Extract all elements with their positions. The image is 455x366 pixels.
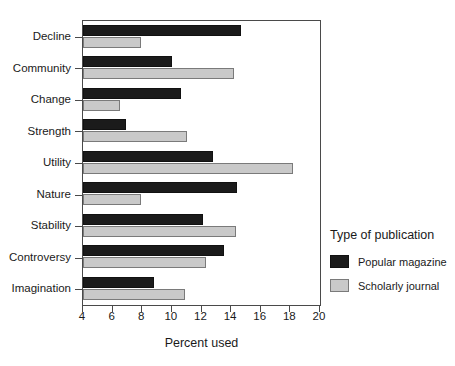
legend-item-popular-magazine: Popular magazine <box>330 255 455 268</box>
y-axis-label-utility: Utility <box>43 147 71 179</box>
bar-scholarly-journal <box>83 257 206 268</box>
x-axis-title: Percent used <box>82 336 321 350</box>
legend: Type of publication Popular magazine Sch… <box>330 228 455 303</box>
x-axis-tick-label-6: 6 <box>97 310 127 322</box>
y-axis-tick <box>75 100 82 101</box>
bar-scholarly-journal <box>83 68 234 79</box>
bar-rows-container <box>83 21 320 305</box>
bar-popular-magazine <box>83 277 154 288</box>
bar-row <box>83 84 320 116</box>
legend-label-popular-magazine: Popular magazine <box>358 256 447 268</box>
y-axis-tick <box>75 226 82 227</box>
legend-label-scholarly-journal: Scholarly journal <box>358 280 439 292</box>
x-axis-tick-label-4: 4 <box>67 310 97 322</box>
bar-scholarly-journal <box>83 37 141 48</box>
bar-popular-magazine <box>83 214 203 225</box>
bar-popular-magazine <box>83 245 224 256</box>
y-axis-tick <box>75 195 82 196</box>
bar-popular-magazine <box>83 119 126 130</box>
bar-row <box>83 242 320 274</box>
bar-row <box>83 147 320 179</box>
y-axis-label-decline: Decline <box>33 21 71 53</box>
bar-scholarly-journal <box>83 131 187 142</box>
bar-row <box>83 53 320 85</box>
y-axis-tick <box>75 131 82 132</box>
y-axis-tick <box>75 289 82 290</box>
x-axis-tick-label-10: 10 <box>156 310 186 322</box>
legend-swatch-icon-scholarly-journal <box>330 279 349 292</box>
bar-row <box>83 273 320 305</box>
legend-swatch-icon-popular-magazine <box>330 255 349 268</box>
y-axis-label-controversy: Controversy <box>9 242 71 274</box>
bar-scholarly-journal <box>83 226 236 237</box>
y-axis-category-labels: DeclineCommunityChangeStrengthUtilityNat… <box>0 21 82 305</box>
bar-popular-magazine <box>83 88 181 99</box>
x-axis-tick-label-20: 20 <box>304 310 334 322</box>
x-axis-tick-label-8: 8 <box>126 310 156 322</box>
y-axis-tick <box>75 163 82 164</box>
x-axis-tick-label-18: 18 <box>274 310 304 322</box>
legend-item-scholarly-journal: Scholarly journal <box>330 279 455 292</box>
horizontal-bar-chart: DeclineCommunityChangeStrengthUtilityNat… <box>0 0 455 366</box>
x-axis-tick-label-12: 12 <box>186 310 216 322</box>
y-axis-label-change: Change <box>31 84 71 116</box>
y-axis-label-strength: Strength <box>28 116 71 148</box>
y-axis-tick <box>75 37 82 38</box>
bar-scholarly-journal <box>83 163 293 174</box>
y-axis-label-imagination: Imagination <box>12 273 71 305</box>
y-axis-label-community: Community <box>13 53 71 85</box>
bar-row <box>83 116 320 148</box>
bar-popular-magazine <box>83 182 237 193</box>
bar-scholarly-journal <box>83 194 141 205</box>
bar-scholarly-journal <box>83 100 120 111</box>
y-axis-label-stability: Stability <box>31 210 71 242</box>
x-axis-tick-labels: 468101214161820 <box>0 310 455 326</box>
x-axis-tick-label-16: 16 <box>245 310 275 322</box>
y-axis-tick <box>75 68 82 69</box>
bar-row <box>83 21 320 53</box>
bar-scholarly-journal <box>83 289 185 300</box>
y-axis-label-nature: Nature <box>36 179 71 211</box>
bar-popular-magazine <box>83 25 241 36</box>
bar-popular-magazine <box>83 151 213 162</box>
y-axis-tick <box>75 258 82 259</box>
x-axis-tick-label-14: 14 <box>215 310 245 322</box>
bar-row <box>83 210 320 242</box>
bar-row <box>83 179 320 211</box>
legend-title: Type of publication <box>330 228 455 242</box>
bar-popular-magazine <box>83 56 172 67</box>
